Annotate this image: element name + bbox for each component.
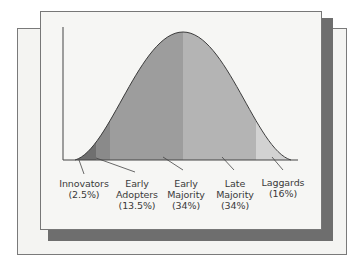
label-late-majority: Late Majority (34%) <box>212 178 258 211</box>
segment-laggards <box>256 20 296 161</box>
label-innovators: Innovators (2.5%) <box>56 178 112 200</box>
label-laggards: Laggards (16%) <box>259 177 307 199</box>
segment-late-majority <box>183 20 256 161</box>
label-early-adopters: Early Adopters (13.5%) <box>114 178 160 211</box>
segment-innovators <box>60 20 96 161</box>
bell-curve-chart <box>0 0 363 266</box>
segment-early-majority-left <box>110 20 183 161</box>
label-early-majority: Early Majority (34%) <box>163 178 209 211</box>
